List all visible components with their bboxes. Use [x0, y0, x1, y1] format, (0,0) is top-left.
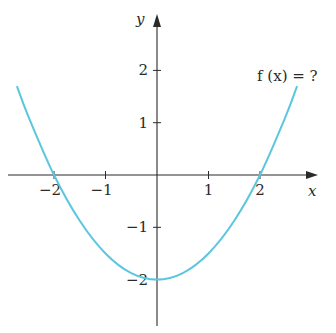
x-tick-label: 1 — [204, 181, 214, 199]
y-axis-label: y — [135, 10, 145, 28]
y-tick-label: −2 — [126, 271, 148, 289]
function-annotation: f (x) = ? — [257, 67, 318, 85]
y-tick-label: 2 — [138, 61, 148, 79]
x-axis-label: x — [308, 182, 317, 200]
x-axis-arrow-icon — [306, 171, 318, 179]
y-tick-label: −1 — [126, 218, 148, 236]
chart: −2−11221−1−2 x y f (x) = ? — [0, 0, 336, 333]
x-tick-label: −1 — [90, 181, 112, 199]
y-tick-label: 1 — [138, 114, 148, 132]
y-axis-arrow-icon — [153, 14, 161, 27]
